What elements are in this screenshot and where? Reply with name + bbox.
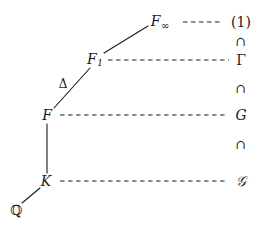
node-label-script-G: 𝒢 — [236, 173, 246, 189]
inclusion-symbol-2: ∩ — [236, 82, 247, 95]
diagram-lines-layer — [0, 0, 262, 231]
node-label-F-1: F — [87, 51, 97, 67]
edge-F1-Finf — [104, 26, 148, 53]
edge-label-delta-text: Δ — [59, 77, 68, 91]
inclusion-glyph-1: ∩ — [236, 34, 247, 49]
node-label-gamma: Γ — [236, 52, 246, 68]
node-field-F-1: F1 — [87, 52, 103, 68]
node-label-G: G — [235, 107, 246, 123]
node-field-F-infinity: F∞ — [151, 14, 170, 31]
node-label-F-infinity: F — [151, 13, 161, 29]
node-field-F: F — [42, 108, 52, 122]
node-subscript-1: 1 — [97, 58, 103, 68]
inclusion-glyph-3: ∩ — [236, 137, 247, 152]
inclusion-symbol-3: ∩ — [236, 138, 247, 151]
node-label-one: (1) — [231, 14, 251, 30]
node-label-K: K — [41, 173, 51, 189]
dashed-edges-group — [60, 22, 229, 181]
field-extension-diagram: F∞ F1 F K ℚ Δ (1) Γ G 𝒢 ∩ ∩ ∩ — [0, 0, 262, 231]
node-label-F: F — [42, 107, 52, 123]
edge-label-delta: Δ — [59, 78, 68, 90]
node-group-script-G: 𝒢 — [236, 174, 246, 188]
inclusion-glyph-2: ∩ — [236, 81, 247, 96]
node-subscript-infinity: ∞ — [161, 19, 169, 30]
node-label-Q: ℚ — [10, 202, 22, 218]
inclusion-symbol-1: ∩ — [236, 35, 247, 48]
node-field-K: K — [41, 174, 51, 188]
node-group-gamma: Γ — [236, 53, 246, 67]
node-group-G: G — [235, 108, 246, 122]
edge-Q-K — [22, 188, 40, 203]
node-field-Q: ℚ — [10, 203, 22, 217]
node-group-one: (1) — [231, 15, 251, 29]
